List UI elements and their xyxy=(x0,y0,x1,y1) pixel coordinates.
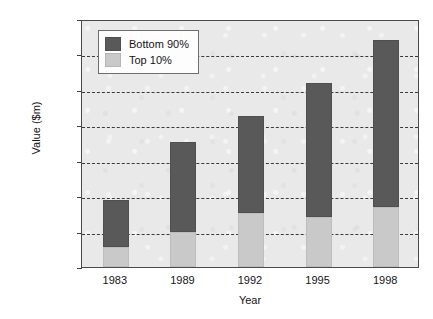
bar-group-1998[interactable] xyxy=(373,20,399,267)
bar-segment-bottom-90[interactable] xyxy=(306,83,332,217)
bar-group-1995[interactable] xyxy=(306,20,332,267)
bar-segment-top-10[interactable] xyxy=(103,247,129,267)
bar-segment-top-10[interactable] xyxy=(238,213,264,267)
x-axis-tick-label: 1989 xyxy=(152,274,212,287)
x-axis-title: Year xyxy=(81,294,419,307)
legend-item-bottom-90: Bottom 90% xyxy=(105,36,189,52)
bar-segment-top-10[interactable] xyxy=(306,217,332,267)
x-axis-tick-label: 1998 xyxy=(355,274,415,287)
bar-segment-top-10[interactable] xyxy=(170,232,196,267)
bar-segment-bottom-90[interactable] xyxy=(103,200,129,247)
legend-item-top-10: Top 10% xyxy=(105,52,189,68)
x-axis-tick-label: 1983 xyxy=(85,274,145,287)
y-axis-title: Value ($m) xyxy=(30,102,43,155)
bar-segment-bottom-90[interactable] xyxy=(170,142,196,232)
bar-segment-bottom-90[interactable] xyxy=(373,40,399,207)
stacked-bar-chart: Value ($m) 7,000,0006,000,0005,000,0004,… xyxy=(0,0,433,319)
y-axis-tick-mark xyxy=(77,268,82,269)
legend-label-bottom-90: Bottom 90% xyxy=(129,38,189,51)
legend-swatch-bottom-90-icon xyxy=(105,37,121,51)
legend-swatch-top-10-icon xyxy=(105,53,121,67)
bar-segment-bottom-90[interactable] xyxy=(238,116,264,213)
x-axis-tick-label: 1995 xyxy=(288,274,348,287)
bar-segment-top-10[interactable] xyxy=(373,207,399,267)
chart-legend: Bottom 90% Top 10% xyxy=(98,30,199,74)
bar-group-1992[interactable] xyxy=(238,20,264,267)
x-axis-tick-label: 1992 xyxy=(220,274,280,287)
legend-label-top-10: Top 10% xyxy=(129,54,172,67)
